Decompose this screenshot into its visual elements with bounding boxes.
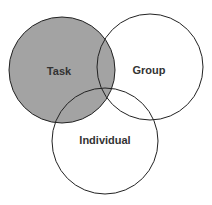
- individual-label: Individual: [79, 134, 130, 146]
- task-label: Task: [47, 65, 71, 77]
- venn-diagram: Task Group Individual: [0, 0, 212, 205]
- venn-svg: [0, 0, 212, 205]
- group-label: Group: [133, 64, 166, 76]
